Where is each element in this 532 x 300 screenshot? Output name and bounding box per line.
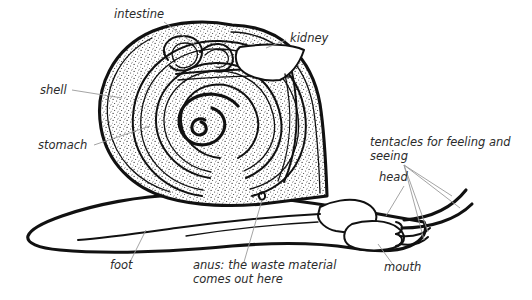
label-mouth: mouth	[384, 260, 421, 274]
label-shell: shell	[40, 83, 68, 97]
label-tentacles-line1: tentacles for feeling and	[370, 135, 511, 149]
snail-shell	[90, 15, 340, 215]
label-tentacles-line2: seeing	[370, 149, 408, 163]
label-intestine: intestine	[114, 7, 164, 21]
label-anus-line2: comes out here	[193, 272, 283, 286]
label-anus-line1: anus: the waste material	[193, 258, 337, 272]
snail-diagram-svg: intestine kidney shell stomach tentacles…	[0, 0, 532, 300]
label-foot: foot	[110, 258, 133, 272]
snail-anatomy-diagram: intestine kidney shell stomach tentacles…	[0, 0, 532, 300]
label-head: head	[379, 170, 408, 184]
label-stomach: stomach	[38, 138, 87, 152]
label-kidney: kidney	[290, 31, 329, 45]
